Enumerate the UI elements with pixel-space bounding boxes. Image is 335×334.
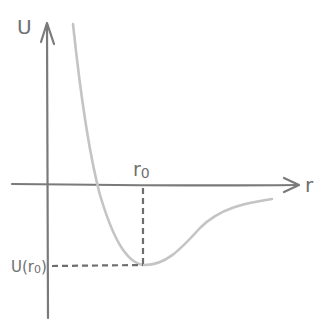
- u-r0-label-sub: 0: [34, 263, 41, 276]
- u-r0-label-main: U(r: [11, 258, 35, 276]
- r0-label-sub: 0: [141, 165, 150, 181]
- y-axis-label: U: [17, 15, 32, 39]
- x-axis-label: r: [305, 173, 314, 197]
- u-r0-label: U(r0): [11, 258, 47, 276]
- y-axis: [47, 24, 48, 318]
- u-r0-label-close: ): [41, 258, 47, 276]
- potential-energy-diagram: U r r0 U(r0): [0, 0, 335, 334]
- potential-curve: [73, 24, 272, 265]
- u-r0-dashed-guide: [52, 265, 143, 266]
- r0-label-main: r: [133, 158, 141, 180]
- r0-label: r0: [133, 158, 150, 181]
- x-axis: [12, 184, 298, 185]
